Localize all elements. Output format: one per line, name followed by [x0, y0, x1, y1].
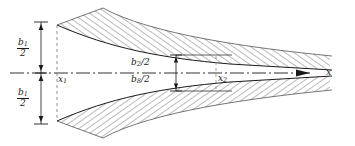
label-throat-top-denominator: /2 — [141, 57, 150, 67]
diagram-canvas — [0, 0, 355, 146]
label-x-axis: x — [326, 67, 331, 77]
label-half-width-top: b1 2 — [17, 38, 29, 59]
label-throat-bottom-denominator: /2 — [141, 74, 150, 84]
label-half-width-top-subscript: 1 — [24, 40, 28, 48]
label-half-width-top-denominator: 2 — [17, 49, 29, 58]
centerline-axis — [10, 70, 310, 77]
label-station-2: x2 — [218, 74, 227, 84]
label-station-1-subscript: 1 — [63, 77, 67, 85]
label-half-width-bottom-subscript: 1 — [24, 90, 28, 98]
left-half-width-dimension — [34, 22, 48, 124]
label-station-2-subscript: 2 — [223, 76, 227, 84]
label-half-width-bottom-denominator: 2 — [17, 99, 29, 108]
x-axis-arrow — [296, 70, 310, 77]
label-station-1: x1 — [58, 75, 67, 85]
label-throat-bottom: b8/2 — [131, 75, 150, 85]
label-half-width-bottom: b1 2 — [17, 88, 29, 109]
label-throat-top: b2/2 — [131, 58, 150, 68]
technical-diagram: b1 2 b1 2 b2/2 b8/2 x1 x2 x — [0, 0, 355, 146]
